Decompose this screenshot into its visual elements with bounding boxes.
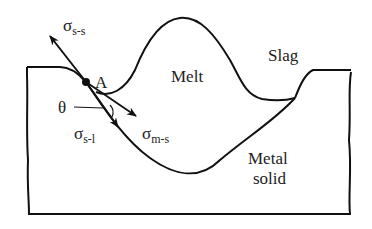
sigma-subscript: m-s (151, 132, 169, 146)
label-point-a: A (95, 74, 107, 91)
sigma-symbol: σ (142, 124, 151, 143)
sigma-subscript: s-s (72, 24, 85, 38)
label-sigma-ss: σs-s (63, 17, 86, 34)
melt-free-surface (96, 18, 295, 100)
label-sigma-ms: σm-s (142, 125, 169, 142)
solid-top-right (295, 70, 351, 98)
sigma-subscript: s-l (83, 132, 95, 146)
sigma-symbol: σ (63, 16, 72, 35)
label-melt: Melt (171, 68, 203, 85)
label-solid: solid (253, 170, 286, 187)
label-sigma-sl: σs-l (74, 125, 95, 142)
sigma-symbol: σ (74, 124, 83, 143)
theta-leader (74, 107, 103, 108)
sigma-ss-arrow (50, 36, 86, 82)
label-metal: Metal (248, 150, 288, 167)
diagram-canvas (0, 0, 372, 229)
sigma-ms-arrow (86, 82, 136, 116)
label-theta: θ (58, 99, 66, 116)
label-slag: Slag (268, 47, 298, 64)
